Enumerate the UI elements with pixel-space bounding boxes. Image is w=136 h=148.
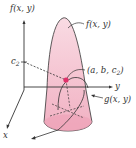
- surface-f-label: f(x, y): [86, 20, 111, 29]
- c2-label: c2: [11, 57, 20, 67]
- vertical-axis-arrow-icon: [23, 20, 26, 24]
- x-axis-arrow-icon: [7, 125, 10, 130]
- point-label-prefix: (a, b, c: [87, 65, 116, 75]
- vertical-axis-label: f(x, y): [10, 4, 35, 13]
- x-axis-label: x: [3, 131, 8, 140]
- constrained-extremum-diagram: f(x, y) c2 f(x, y) (a, b, c2) y x g(x, y…: [0, 0, 136, 148]
- g-curve-arrow-icon: [31, 136, 36, 140]
- extremum-point: [63, 77, 68, 82]
- leader-g: [94, 96, 103, 98]
- c2-label-sub: 2: [16, 60, 20, 67]
- leader-g-arrow-icon: [91, 95, 95, 98]
- point-label: (a, b, c2): [87, 66, 124, 76]
- y-axis-arrow-icon: [109, 86, 113, 89]
- point-label-suffix: ): [120, 65, 123, 75]
- x-axis: [8, 90, 24, 126]
- y-axis-label: y: [115, 82, 120, 91]
- surface-f: [44, 18, 92, 131]
- g-label: g(x, y): [104, 95, 131, 104]
